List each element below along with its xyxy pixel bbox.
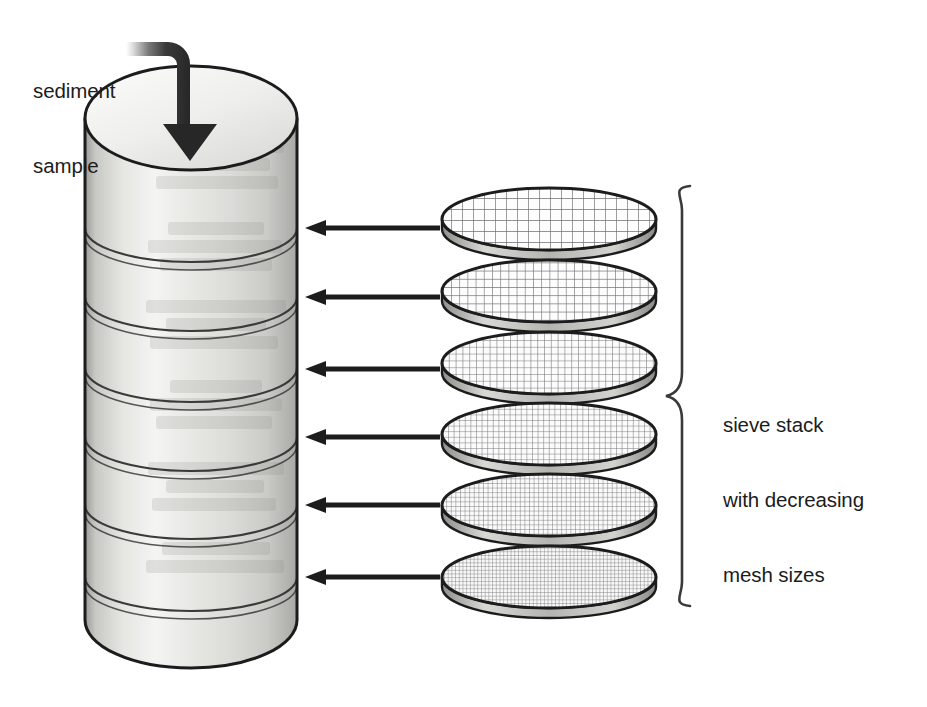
sediment-sample-label: sediment sample [33,28,115,228]
pointer-arrow-1 [305,220,440,236]
sieve-disc-6[interactable] [442,546,656,618]
sieve-disc-3[interactable] [442,332,656,404]
sediment-sample-label-line-1: sediment [33,78,115,103]
sieve-stack-label-line-2: with decreasing [723,487,864,512]
sieve-stack-brace [666,186,690,606]
pointer-arrow-6 [305,569,440,585]
sieve-disc-group[interactable] [442,188,656,618]
sieve-disc-4[interactable] [442,403,656,475]
sieve-disc-1[interactable] [442,188,656,260]
sieve-stack-diagram: sediment sample sieve stack with decreas… [0,0,927,707]
pointer-arrow-4 [305,429,440,445]
sieve-stack-label: sieve stack with decreasing mesh sizes [723,362,864,637]
pointer-arrow-2 [305,289,440,305]
sieve-stack-label-line-1: sieve stack [723,412,864,437]
sieve-disc-5[interactable] [442,474,656,546]
sieve-disc-2[interactable] [442,260,656,332]
sediment-sample-label-line-2: sample [33,153,115,178]
pointer-arrow-5 [305,497,440,513]
sieve-stack-label-line-3: mesh sizes [723,562,864,587]
pointer-arrow-group [305,220,440,585]
pointer-arrow-3 [305,361,440,377]
